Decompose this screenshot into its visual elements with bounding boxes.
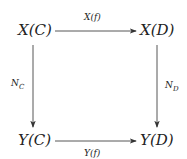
node-top-left: X(C) xyxy=(18,23,52,38)
node-bottom-right: Y(D) xyxy=(140,133,174,148)
label-top-arrow: X(f) xyxy=(84,13,101,22)
label-right-arrow: ND xyxy=(165,81,179,93)
label-left-sub: C xyxy=(19,83,24,91)
label-right-main: N xyxy=(165,80,173,90)
label-left-main: N xyxy=(11,78,19,88)
node-top-right: X(D) xyxy=(140,23,174,38)
label-bottom-arrow: Y(f) xyxy=(84,149,100,158)
node-bottom-left: Y(C) xyxy=(18,133,51,148)
label-right-sub: D xyxy=(173,85,179,93)
label-left-arrow: NC xyxy=(11,79,24,91)
